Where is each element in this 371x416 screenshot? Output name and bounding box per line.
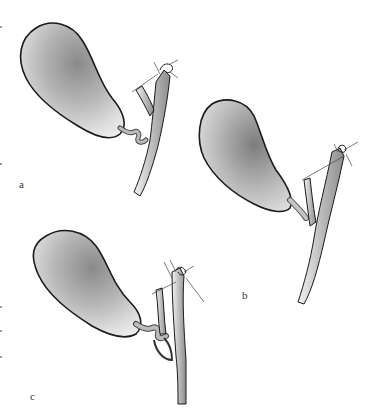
panel-c [33,231,204,404]
edge-mark [0,356,2,358]
edge-mark [0,163,2,165]
panel-label-c: c [30,390,35,402]
common-bile-duct-c [172,268,186,404]
hepatic-duct-left-a [136,86,154,116]
panel-a [21,23,178,196]
common-bile-duct-b [298,148,344,304]
edge-mark [0,26,2,28]
edge-mark [0,330,2,332]
gallbladder-anatomy-figure [0,0,371,416]
edge-mark [0,306,2,308]
gallbladder-c [33,231,140,337]
panel-b [199,100,358,304]
panel-label-b: b [242,289,248,301]
accessory-duct-loop-c [154,338,172,360]
panel-label-a: a [19,178,24,190]
gallbladder-b [199,100,291,211]
gallbladder-a [21,23,125,138]
